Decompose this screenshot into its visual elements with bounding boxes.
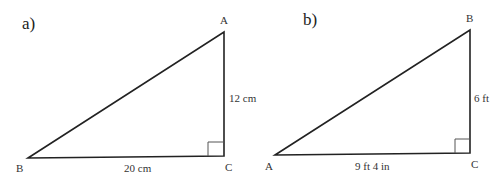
vertex-label-b-top: B xyxy=(466,12,473,24)
vertex-label-a-left: B xyxy=(16,162,23,174)
triangle-a-outline xyxy=(28,32,224,158)
vertex-label-a-top: A xyxy=(220,14,228,26)
right-angle-marker-b xyxy=(455,139,470,153)
side-label-a-horizontal: 20 cm xyxy=(124,162,151,174)
part-label-a: a) xyxy=(22,14,35,34)
side-label-a-vertical: 12 cm xyxy=(229,92,256,104)
right-angle-marker-a xyxy=(208,142,224,156)
triangle-b-outline xyxy=(275,30,470,155)
vertex-label-b-left: A xyxy=(265,160,273,172)
triangle-a xyxy=(28,32,224,158)
triangle-b xyxy=(275,30,470,155)
side-label-b-horizontal: 9 ft 4 in xyxy=(355,160,390,172)
vertex-label-b-right-angle: C xyxy=(471,158,478,170)
side-label-b-vertical: 6 ft xyxy=(474,92,489,104)
vertex-label-a-right-angle: C xyxy=(225,161,232,173)
part-label-b: b) xyxy=(303,10,317,30)
